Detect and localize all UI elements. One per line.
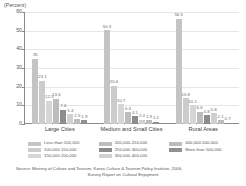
bar-value-label: 10.7 [117,99,126,103]
bar[interactable] [104,30,110,124]
legend-item[interactable]: 400,000-500,000 [169,141,240,146]
legend-item[interactable]: Less than 100,000 [28,141,99,146]
bar-group: 56.513.810.16.64.85.82.10.7 [167,12,239,124]
bar-slot: 35 [32,12,38,124]
bar-value-label: 13.8 [181,93,190,97]
bar-slot: 2.4 [139,12,145,124]
legend-column-3: 400,000-500,000More than 500,000 [169,141,240,160]
bar-slot: 4.1 [132,12,138,124]
bar-slot: 12.5 [46,12,52,124]
bar-value-label: 2.1 [218,115,224,119]
bar-value-label: 35 [33,53,38,57]
bar-group: 50.320.610.76.34.12.41.91.2 [96,12,168,124]
bar-slot: 50.3 [104,12,110,124]
bar[interactable] [132,116,138,124]
bar[interactable] [153,122,159,124]
bar-slot: 1.9 [146,12,152,124]
legend-item-label: 400,000-500,000 [185,141,218,145]
source-line-2: Survey Report on Cultural Enjoyment [0,172,246,178]
bar-slot: 56.5 [176,12,182,124]
bar-slot: 2.5 [74,12,80,124]
legend-item[interactable]: 300,000-400,000 [99,153,170,158]
legend-item-label: 200,000-250,000 [115,141,148,145]
plot-area: 0102030405060 3523.112.513.67.65.42.51.9… [24,12,239,124]
legend-item-label: Less than 100,000 [44,141,79,145]
legend-item[interactable]: 200,000-250,000 [99,141,170,146]
bar-value-label: 4.1 [132,111,138,115]
bar[interactable] [39,81,45,124]
bar-value-label: 56.5 [174,13,183,17]
bar-value-label: 6.3 [125,107,131,111]
source-note: Source: Ministry of Culture and Tourism,… [0,166,246,178]
legend-item[interactable]: 150,000-200,000 [28,153,99,158]
legend-item-label: 150,000-200,000 [44,154,77,158]
bar-value-label: 23.1 [38,75,47,79]
bar[interactable] [118,104,124,124]
legend-item[interactable]: 250,000-300,000 [99,147,170,152]
legend-swatch [169,148,182,152]
bar-value-label: 20.6 [110,80,119,84]
legend-swatch [28,154,41,158]
bar-groups: 3523.112.513.67.65.42.51.950.320.610.76.… [24,12,239,124]
category-label-medium-small-cities: Medium and Small Cities [96,126,168,132]
bar-slot: 1.9 [81,12,87,124]
y-axis-unit-label: (Percent) [4,2,26,8]
bar-value-label: 50.3 [103,25,112,29]
bar[interactable] [225,123,231,124]
bar[interactable] [211,113,217,124]
legend-item-label: 250,000-300,000 [115,148,148,152]
bar-slot: 7.6 [60,12,66,124]
bar-slot: 6.6 [197,12,203,124]
bar-slot: 10.7 [118,12,124,124]
bar[interactable] [176,19,182,124]
legend-swatch [28,142,41,146]
legend-swatch [99,142,112,146]
bar-slot: 0.7 [225,12,231,124]
bar-slot: 2.1 [218,12,224,124]
bar[interactable] [60,110,66,124]
bar-slot: 10.1 [190,12,196,124]
bar-value-label: 5.4 [67,109,73,113]
bar[interactable] [197,112,203,124]
bar-value-label: 4.8 [204,110,210,114]
legend-item[interactable]: More than 500,000 [169,147,240,152]
bar-slot: 5.4 [67,12,73,124]
bar[interactable] [32,59,38,124]
chart-container: (Percent) 0102030405060 3523.112.513.67.… [0,0,246,186]
bar-value-label: 5.8 [211,108,217,112]
bar[interactable] [190,105,196,124]
bar[interactable] [53,99,59,124]
bar[interactable] [74,119,80,124]
bar-value-label: 2.5 [74,114,80,118]
bar[interactable] [67,114,73,124]
bar[interactable] [111,86,117,124]
bar[interactable] [125,112,131,124]
bar-slot: 23.1 [39,12,45,124]
legend-swatch [99,154,112,158]
bar-value-label: 0.7 [225,117,231,121]
bar-value-label: 1.9 [146,115,152,119]
legend-item-label: More than 500,000 [185,148,221,152]
legend-swatch [99,148,112,152]
legend-item-label: 300,000-400,000 [115,154,148,158]
bar[interactable] [46,101,52,124]
bar-value-label: 7.6 [60,104,66,108]
legend-column-1: Less than 100,000100,000-150,000150,000-… [28,141,99,160]
bar[interactable] [218,120,224,124]
legend-column-2: 200,000-250,000250,000-300,000300,000-40… [99,141,170,160]
bar-slot: 13.8 [183,12,189,124]
bar[interactable] [81,120,87,124]
category-label-large-cities: Large Cities [24,126,96,132]
bar-value-label: 1.2 [153,116,159,120]
y-tick-mark-0 [22,124,25,125]
bar[interactable] [204,115,210,124]
legend-swatch [28,148,41,152]
bar[interactable] [139,120,145,124]
bar-slot: 13.6 [53,12,59,124]
bar-slot: 5.8 [211,12,217,124]
bar[interactable] [146,120,152,124]
bar-value-label: 1.9 [81,115,87,119]
legend-item[interactable]: 100,000-150,000 [28,147,99,152]
bar-group: 3523.112.513.67.65.42.51.9 [24,12,96,124]
bar-value-label: 6.6 [197,106,203,110]
